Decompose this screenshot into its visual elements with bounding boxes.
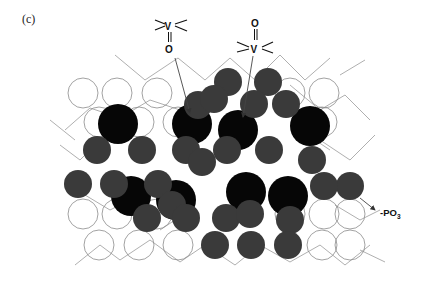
phosphate-group (336, 172, 364, 200)
oxygen-atom (124, 230, 154, 260)
phosphate-group (274, 231, 302, 259)
svg-text:O: O (165, 44, 173, 55)
svg-text:V: V (251, 44, 258, 55)
oxygen-atom (307, 230, 337, 260)
vo-down-label: V O (155, 20, 190, 113)
surface-lattice-diagram: V O O V -PO3 (0, 0, 421, 284)
po3-label: -PO3 (360, 198, 401, 220)
oxygen-atom (102, 78, 132, 108)
phosphate-group (172, 204, 200, 232)
phosphate-group (212, 204, 240, 232)
phosphate-group (276, 206, 304, 234)
phosphate-group (240, 90, 268, 118)
oxygen-atom (335, 230, 365, 260)
oxygen-atom (309, 199, 339, 229)
phosphate-group (64, 170, 92, 198)
phosphate-group (83, 136, 111, 164)
svg-text:V: V (165, 21, 172, 32)
phosphate-group (298, 146, 326, 174)
phosphate-group (188, 148, 216, 176)
phosphate-group (237, 231, 265, 259)
phosphate-group (236, 200, 264, 228)
phosphate-group (100, 170, 128, 198)
phosphate-group (201, 231, 229, 259)
oxygen-atom (309, 78, 339, 108)
phosphate-group (213, 136, 241, 164)
phosphate-group (133, 204, 161, 232)
oxygen-atom (142, 78, 172, 108)
oxygen-atom (84, 230, 114, 260)
phosphate-group (200, 85, 228, 113)
oxygen-atom (163, 230, 193, 260)
phosphate-group (255, 136, 283, 164)
oxygen-atom (68, 199, 98, 229)
svg-text:O: O (251, 18, 259, 29)
phosphate-group (128, 136, 156, 164)
phosphate-group (310, 172, 338, 200)
oxygen-atom (68, 78, 98, 108)
phosphate-group (272, 90, 300, 118)
svg-text:-PO3: -PO3 (380, 207, 401, 220)
